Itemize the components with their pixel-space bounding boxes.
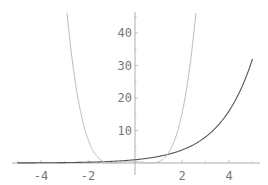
- axes: [12, 12, 260, 175]
- y-tick-label: 10: [118, 124, 132, 138]
- x-tick-label: -2: [81, 169, 95, 183]
- x-tick-label: -4: [34, 169, 48, 183]
- y-tick-label: 30: [118, 59, 132, 73]
- y-tick-label: 20: [118, 91, 132, 105]
- x-tick-label: 2: [178, 169, 185, 183]
- series-quartic-line: [67, 7, 200, 163]
- chart-plot-area: -4-22410203040: [0, 0, 268, 185]
- y-tick-label: 40: [118, 26, 132, 40]
- x-tick-label: 4: [225, 169, 232, 183]
